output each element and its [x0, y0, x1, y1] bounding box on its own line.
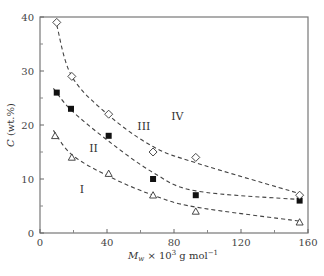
y-tick-label: 10 [21, 174, 34, 185]
x-tick-label: 80 [168, 237, 181, 248]
triangle-marker [296, 219, 303, 225]
plot-frame [40, 17, 308, 233]
square-marker [106, 133, 112, 139]
diamond-marker [105, 110, 113, 118]
y-tick-label: 40 [21, 12, 34, 23]
triangle-marker [192, 208, 199, 214]
x-tick-label: 120 [231, 237, 250, 248]
square-marker [54, 90, 60, 96]
chart: 04080120160010203040 IIIIIIIV C (wt.%) M… [0, 0, 324, 276]
y-axis-label: C (wt.%) [5, 103, 16, 147]
axis-ticks: 04080120160010203040 [21, 12, 317, 248]
diamond-marker [53, 18, 61, 26]
triangle-marker [105, 170, 112, 176]
x-tick-label: 0 [37, 237, 43, 248]
x-tick-label: 160 [298, 237, 317, 248]
square-marker [150, 176, 156, 182]
y-tick-label: 30 [21, 66, 34, 77]
region-label: IV [171, 110, 184, 123]
y-tick-label: 20 [21, 120, 34, 131]
x-tick-label: 40 [101, 237, 114, 248]
diamond-marker [149, 148, 157, 156]
square-marker [68, 106, 74, 112]
y-tick-label: 0 [28, 228, 34, 239]
diamond-marker [68, 72, 76, 80]
fit-curves [53, 25, 299, 221]
diamond-marker [192, 153, 200, 161]
triangle-marker [52, 132, 59, 138]
x-axis-label: Mw × 103 g mol−1 [127, 249, 218, 263]
square-marker [193, 192, 199, 198]
plot-border [40, 17, 308, 233]
triangle-marker [68, 154, 75, 160]
region-label: II [89, 142, 98, 155]
region-label: I [80, 183, 84, 196]
region-label: III [137, 120, 150, 133]
